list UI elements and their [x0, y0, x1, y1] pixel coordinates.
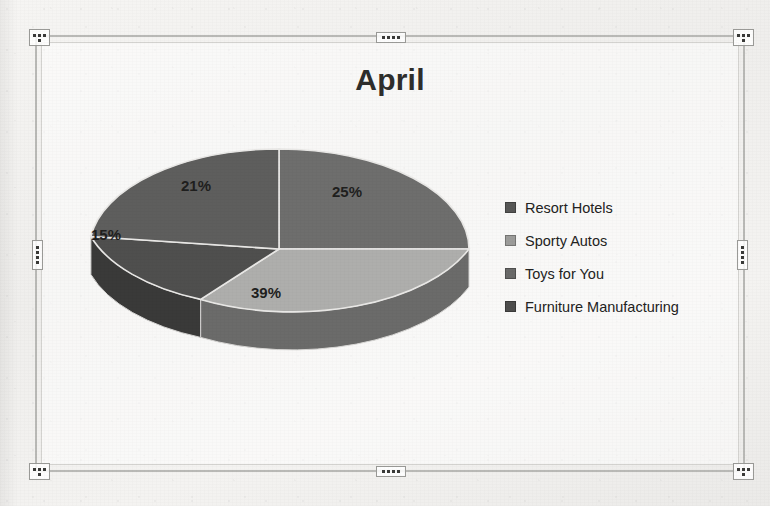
data-label-sporty-autos: 39%: [251, 284, 281, 301]
data-label-resort-hotels: 25%: [332, 183, 362, 200]
handle-bottom-left[interactable]: [29, 463, 50, 480]
chart-title: April: [42, 63, 738, 97]
handle-middle-right[interactable]: [737, 240, 748, 270]
legend-item-resort-hotels[interactable]: Resort Hotels: [505, 191, 730, 224]
handle-bottom-right[interactable]: [733, 463, 754, 480]
legend-item-label: Furniture Manufacturing: [525, 299, 679, 315]
pie-plot-area: 25% 39% 15% 21%: [64, 121, 494, 391]
handle-top-center[interactable]: [376, 32, 406, 43]
data-label-toys-for-you: 15%: [91, 226, 121, 243]
document-canvas: April: [0, 0, 770, 506]
page-edge-shadow: [0, 0, 18, 506]
legend-swatch-icon: [505, 235, 516, 246]
pie-slice-resort-hotels[interactable]: [279, 149, 469, 249]
pie-3d[interactable]: 25% 39% 15% 21%: [64, 121, 494, 391]
legend-item-label: Toys for You: [525, 266, 604, 282]
legend-item-toys-for-you[interactable]: Toys for You: [505, 257, 730, 290]
legend-swatch-icon: [505, 301, 516, 312]
legend-item-furniture-manufacturing[interactable]: Furniture Manufacturing: [505, 290, 730, 323]
handle-bottom-center[interactable]: [376, 466, 406, 477]
legend-swatch-icon: [505, 202, 516, 213]
legend-item-sporty-autos[interactable]: Sporty Autos: [505, 224, 730, 257]
legend-item-label: Resort Hotels: [525, 200, 613, 216]
handle-middle-left[interactable]: [32, 240, 43, 270]
chart-legend[interactable]: Resort Hotels Sporty Autos Toys for You …: [505, 191, 730, 323]
pie-chart-svg: [64, 121, 494, 391]
handle-top-left[interactable]: [29, 29, 50, 46]
legend-item-label: Sporty Autos: [525, 233, 607, 249]
data-label-furniture-manufacturing: 21%: [181, 177, 211, 194]
legend-swatch-icon: [505, 268, 516, 279]
handle-top-right[interactable]: [733, 29, 754, 46]
chart-object[interactable]: April: [41, 42, 739, 465]
